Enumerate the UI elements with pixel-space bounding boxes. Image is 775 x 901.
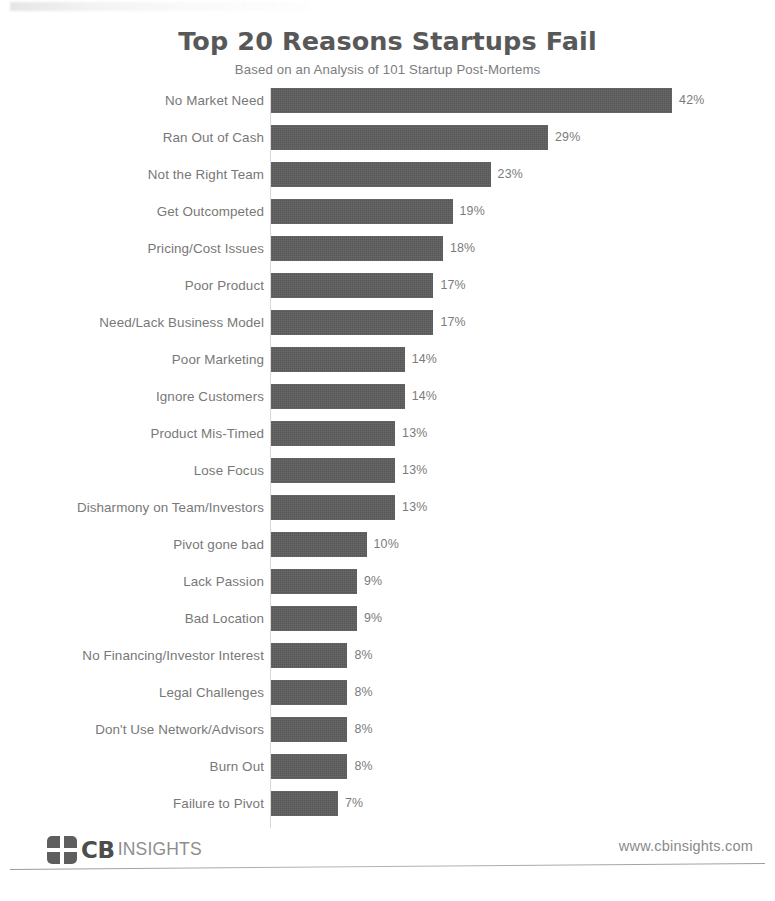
bar-row: No Market Need42% bbox=[0, 88, 775, 125]
bar-value-label: 7% bbox=[345, 791, 363, 816]
bar bbox=[271, 273, 433, 298]
bar bbox=[271, 606, 357, 631]
bar-value-label: 13% bbox=[402, 495, 427, 520]
bar bbox=[271, 643, 347, 668]
bar-value-label: 13% bbox=[402, 458, 427, 483]
bar-value-label: 9% bbox=[364, 606, 382, 631]
bar-category-label: Poor Marketing bbox=[172, 347, 264, 372]
bar-value-label: 23% bbox=[498, 162, 523, 187]
bar-row: Product Mis-Timed13% bbox=[0, 421, 775, 458]
bar bbox=[271, 717, 347, 742]
bar bbox=[271, 384, 405, 409]
bar-value-label: 18% bbox=[450, 236, 475, 261]
bar-row: Ran Out of Cash29% bbox=[0, 125, 775, 162]
bar bbox=[271, 125, 548, 150]
bar-category-label: Don't Use Network/Advisors bbox=[95, 717, 264, 742]
bar-category-label: Poor Product bbox=[185, 273, 264, 298]
bar-row: Pricing/Cost Issues18% bbox=[0, 236, 775, 273]
bar bbox=[271, 754, 347, 779]
bar-value-label: 8% bbox=[354, 717, 372, 742]
bar-row: Get Outcompeted19% bbox=[0, 199, 775, 236]
cb-insights-logo: CB INSIGHTS bbox=[47, 836, 202, 864]
bar-value-label: 9% bbox=[364, 569, 382, 594]
bar-row: Need/Lack Business Model17% bbox=[0, 310, 775, 347]
startup-failure-bar-chart: Top 20 Reasons Startups Fail Based on an… bbox=[0, 0, 775, 901]
bar-value-label: 14% bbox=[412, 384, 437, 409]
bar-category-label: Burn Out bbox=[210, 754, 264, 779]
bar-row: Pivot gone bad10% bbox=[0, 532, 775, 569]
bar bbox=[271, 236, 443, 261]
bar-category-label: Product Mis-Timed bbox=[150, 421, 264, 446]
bar-row: Legal Challenges8% bbox=[0, 680, 775, 717]
bar bbox=[271, 680, 347, 705]
bar-row: Failure to Pivot7% bbox=[0, 791, 775, 828]
scan-artifact bbox=[10, 2, 310, 11]
bar-category-label: Lose Focus bbox=[194, 458, 264, 483]
bar-value-label: 8% bbox=[354, 643, 372, 668]
bar-row: Bad Location9% bbox=[0, 606, 775, 643]
bar-row: Don't Use Network/Advisors8% bbox=[0, 717, 775, 754]
bar bbox=[271, 310, 433, 335]
bar-category-label: Legal Challenges bbox=[159, 680, 264, 705]
bar-category-label: Get Outcompeted bbox=[157, 199, 264, 224]
chart-subtitle: Based on an Analysis of 101 Startup Post… bbox=[0, 62, 775, 77]
bar-category-label: Not the Right Team bbox=[148, 162, 264, 187]
bar-category-label: Ran Out of Cash bbox=[163, 125, 264, 150]
bar-category-label: Lack Passion bbox=[183, 569, 264, 594]
bar-value-label: 17% bbox=[440, 310, 465, 335]
bar bbox=[271, 458, 395, 483]
bar-category-label: Need/Lack Business Model bbox=[99, 310, 264, 335]
bar-category-label: Ignore Customers bbox=[156, 384, 264, 409]
bar-category-label: Disharmony on Team/Investors bbox=[77, 495, 264, 520]
bar-value-label: 42% bbox=[679, 88, 704, 113]
bar bbox=[271, 495, 395, 520]
bar-value-label: 17% bbox=[440, 273, 465, 298]
logo-insights-text: INSIGHTS bbox=[118, 841, 202, 859]
bar-row: No Financing/Investor Interest8% bbox=[0, 643, 775, 680]
bar-value-label: 10% bbox=[374, 532, 399, 557]
bar-category-label: No Financing/Investor Interest bbox=[82, 643, 264, 668]
bar bbox=[271, 569, 357, 594]
chart-title-block: Top 20 Reasons Startups Fail Based on an… bbox=[0, 28, 775, 77]
bar-value-label: 14% bbox=[412, 347, 437, 372]
bar-row: Lose Focus13% bbox=[0, 458, 775, 495]
bar bbox=[271, 199, 453, 224]
chart-footer: CB INSIGHTS www.cbinsights.com bbox=[0, 832, 775, 901]
bar-row: Poor Product17% bbox=[0, 273, 775, 310]
bar-value-label: 29% bbox=[555, 125, 580, 150]
bar bbox=[271, 162, 491, 187]
bar-category-label: Failure to Pivot bbox=[173, 791, 264, 816]
bar bbox=[271, 532, 367, 557]
bar-category-label: No Market Need bbox=[165, 88, 264, 113]
plot-area: No Market Need42%Ran Out of Cash29%Not t… bbox=[0, 88, 775, 828]
bar-rows-container: No Market Need42%Ran Out of Cash29%Not t… bbox=[0, 88, 775, 828]
bar bbox=[271, 347, 405, 372]
bar bbox=[271, 421, 395, 446]
bar-row: Ignore Customers14% bbox=[0, 384, 775, 421]
bar-row: Lack Passion9% bbox=[0, 569, 775, 606]
bar-row: Not the Right Team23% bbox=[0, 162, 775, 199]
site-url: www.cbinsights.com bbox=[619, 838, 753, 854]
bar bbox=[271, 791, 338, 816]
bar-row: Poor Marketing14% bbox=[0, 347, 775, 384]
bar-category-label: Pivot gone bad bbox=[173, 532, 264, 557]
bar-value-label: 8% bbox=[354, 680, 372, 705]
bar bbox=[271, 88, 672, 113]
bar-value-label: 8% bbox=[354, 754, 372, 779]
bar-category-label: Pricing/Cost Issues bbox=[147, 236, 264, 261]
cb-insights-plus-icon bbox=[47, 836, 77, 864]
bar-value-label: 19% bbox=[460, 199, 485, 224]
chart-title: Top 20 Reasons Startups Fail bbox=[0, 28, 775, 56]
bar-row: Burn Out8% bbox=[0, 754, 775, 791]
bar-category-label: Bad Location bbox=[185, 606, 264, 631]
footer-divider bbox=[10, 863, 765, 870]
bar-value-label: 13% bbox=[402, 421, 427, 446]
bar-row: Disharmony on Team/Investors13% bbox=[0, 495, 775, 532]
logo-cb-text: CB bbox=[81, 839, 115, 862]
